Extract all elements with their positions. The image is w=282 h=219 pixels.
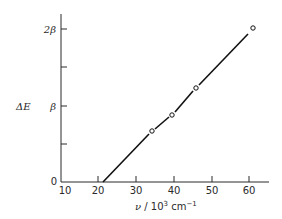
chart: 2β β 0 ΔE 10 20 30 40 50 60 ν / 103 cm−1	[0, 0, 282, 219]
x-axis-label: ν / 103 cm−1	[135, 200, 197, 212]
data-point	[170, 113, 174, 117]
data-point	[251, 26, 255, 30]
x-tick-label: 50	[206, 185, 219, 196]
y-tick-label-origin: 0	[51, 176, 57, 187]
x-ticks	[98, 176, 249, 182]
x-tick-label: 40	[168, 185, 181, 196]
y-tick-label-2beta: 2β	[43, 24, 56, 35]
x-tick-label: 20	[92, 185, 105, 196]
x-tick-label: 30	[130, 185, 143, 196]
y-axis-label: ΔE	[15, 101, 31, 112]
fit-line	[103, 34, 248, 182]
y-tick-label-beta: β	[49, 101, 56, 112]
y-ticks	[61, 29, 67, 144]
data-point	[194, 86, 198, 90]
x-tick-label: 10	[59, 185, 72, 196]
data-point	[150, 129, 154, 133]
x-tick-label: 60	[243, 185, 256, 196]
